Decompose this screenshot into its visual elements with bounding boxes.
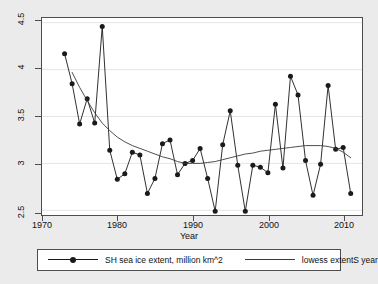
x-tick-label: 1990 [173,220,213,230]
data-point-marker [115,177,120,182]
data-point-marker [205,176,210,181]
data-point-marker [273,102,278,107]
data-point-marker [326,83,331,88]
data-point-marker [280,166,285,171]
data-point-marker [70,81,75,86]
series-line-sea-ice-extent [65,26,351,211]
data-point-marker [130,150,135,155]
legend-entry-sea-ice-extent: SH sea ice extent, million km^2 [48,255,223,265]
data-point-marker [190,158,195,163]
data-point-marker [100,24,105,29]
y-tick-mark [35,164,41,165]
data-point-marker [258,165,263,170]
data-point-marker [348,191,353,196]
y-tick-label: 4.5 [16,7,26,31]
data-point-marker [296,92,301,97]
data-point-marker [175,172,180,177]
data-point-marker [145,191,150,196]
series-line-lowess [72,72,351,163]
data-point-marker [62,51,67,56]
x-tick-label: 2010 [324,220,364,230]
data-point-marker [92,121,97,126]
data-point-marker [198,146,203,151]
data-point-marker [220,142,225,147]
y-tick-label: 4 [16,55,26,79]
y-tick-mark [35,20,41,21]
data-point-marker [288,74,293,79]
data-point-marker [152,176,157,181]
data-point-marker [107,148,112,153]
legend-label: SH sea ice extent, million km^2 [105,255,223,265]
y-tick-label: 3.5 [16,103,26,127]
data-point-marker [228,108,233,113]
data-point-marker [311,193,316,198]
chart-figure: 2.5 3 3.5 4 4.5 1970 1980 1990 2000 2010… [0,0,378,284]
plot-area [41,17,363,216]
data-point-marker [168,137,173,142]
chart-canvas [42,18,362,215]
data-point-marker [213,209,218,214]
legend-marker-line-icon [245,255,295,265]
chart-legend: SH sea ice extent, million km^2 lowess e… [37,249,341,271]
x-tick-label: 1970 [22,220,62,230]
data-point-marker [137,152,142,157]
x-axis-title: Year [0,231,378,241]
data-point-marker [303,158,308,163]
data-point-marker [341,145,346,150]
data-point-marker [122,171,127,176]
y-tick-mark [35,213,41,214]
y-tick-mark [35,116,41,117]
data-point-marker [318,162,323,167]
legend-label: lowess extentS year [302,255,378,265]
data-point-marker [265,170,270,175]
y-tick-label: 3 [16,151,26,175]
data-point-marker [160,141,165,146]
x-tick-label: 2000 [249,220,289,230]
x-tick-label: 1980 [97,220,137,230]
data-point-marker [243,209,248,214]
y-tick-mark [35,68,41,69]
data-point-marker [77,122,82,127]
data-point-marker [235,163,240,168]
legend-marker-line-dot-icon [48,255,98,265]
data-point-marker [250,163,255,168]
legend-entry-lowess: lowess extentS year [245,255,378,265]
